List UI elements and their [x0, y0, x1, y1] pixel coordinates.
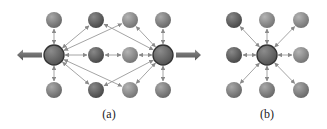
- hub-node-hubL: [44, 45, 64, 65]
- edge-center-nw: [240, 27, 259, 47]
- node-w: [226, 47, 242, 63]
- node-b2: [88, 82, 104, 98]
- diagram-b-star-network: (b): [226, 12, 309, 121]
- edge-center-sw: [240, 63, 259, 83]
- node-b4: [155, 82, 171, 98]
- diagram-a-relay-network: (a): [17, 12, 201, 121]
- node-n: [259, 12, 275, 28]
- flow-arrow-left-icon: [17, 50, 42, 61]
- node-sw: [226, 82, 242, 98]
- diagram-a-edges: [54, 24, 163, 86]
- edge-hubR-t3: [136, 27, 155, 47]
- edge-center-se: [275, 63, 295, 84]
- diagram-b-nodes: [226, 12, 309, 98]
- hub-node-center: [257, 45, 277, 65]
- network-diagram-figure: (a) (b): [0, 0, 327, 129]
- node-s: [259, 82, 275, 98]
- caption-b: (b): [260, 107, 274, 121]
- node-t1: [46, 12, 62, 28]
- node-m2: [122, 47, 138, 63]
- node-t4: [155, 12, 171, 28]
- edge-hubL-t3: [64, 24, 122, 51]
- edge-hubL-b3: [64, 60, 122, 87]
- node-e: [293, 47, 309, 63]
- node-ne: [293, 12, 309, 28]
- flow-arrow-right-icon: [176, 50, 201, 61]
- node-se: [293, 82, 309, 98]
- caption-a: (a): [102, 107, 115, 121]
- node-t3: [122, 12, 138, 28]
- node-b3: [122, 82, 138, 98]
- edge-hubR-b3: [136, 63, 155, 83]
- node-b1: [46, 82, 62, 98]
- edge-center-ne: [275, 26, 295, 47]
- node-t2: [88, 12, 104, 28]
- node-m1: [88, 47, 104, 63]
- node-nw: [226, 12, 242, 28]
- hub-node-hubR: [153, 45, 173, 65]
